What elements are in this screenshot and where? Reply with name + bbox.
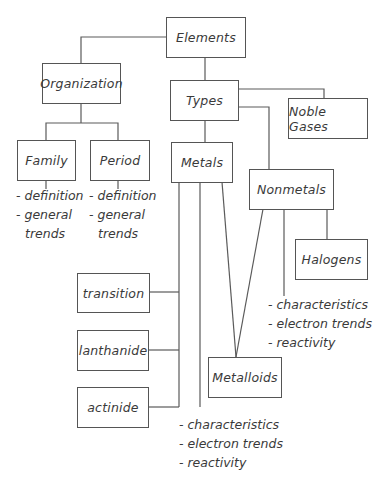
connector-metals-metalloids (222, 182, 236, 357)
node-actinide: actinide (77, 387, 149, 428)
note-item: - definition (89, 186, 157, 205)
note-item: trends (16, 224, 84, 243)
node-family: Family (17, 140, 76, 181)
connector-types-noble-gases (238, 89, 324, 98)
note-item: - general (89, 205, 157, 224)
note-item: - characteristics (268, 295, 372, 314)
connector-nonmetals-metalloids (236, 209, 263, 357)
node-period: Period (90, 140, 150, 181)
connector-elements-organization (81, 37, 166, 63)
notes-family: - definition - general trends (16, 186, 84, 243)
node-transition: transition (77, 273, 150, 313)
node-metals: Metals (171, 142, 233, 183)
node-types: Types (170, 80, 239, 121)
note-item: trends (89, 224, 157, 243)
note-item: - electron trends (268, 314, 372, 333)
note-item: - characteristics (179, 415, 283, 434)
node-lanthanide: lanthanide (77, 330, 149, 371)
node-organization: Organization (42, 63, 121, 104)
note-item: - reactivity (268, 333, 372, 352)
note-item: - electron trends (179, 434, 283, 453)
node-elements: Elements (166, 17, 246, 58)
note-item: - definition (16, 186, 84, 205)
node-noble-gases: Noble Gases (288, 98, 368, 139)
concept-map: Elements Organization Types Noble Gases … (0, 0, 380, 482)
note-item: - general (16, 205, 84, 224)
connector-types-nonmetals (238, 107, 269, 169)
node-halogens: Halogens (295, 239, 368, 280)
notes-metals: - characteristics - electron trends - re… (179, 415, 283, 472)
notes-period: - definition - general trends (89, 186, 157, 243)
connector-organization-children (46, 123, 118, 140)
notes-nonmetals: - characteristics - electron trends - re… (268, 295, 372, 352)
node-metalloids: Metalloids (208, 357, 282, 398)
note-item: - reactivity (179, 453, 283, 472)
node-nonmetals: Nonmetals (249, 169, 334, 210)
